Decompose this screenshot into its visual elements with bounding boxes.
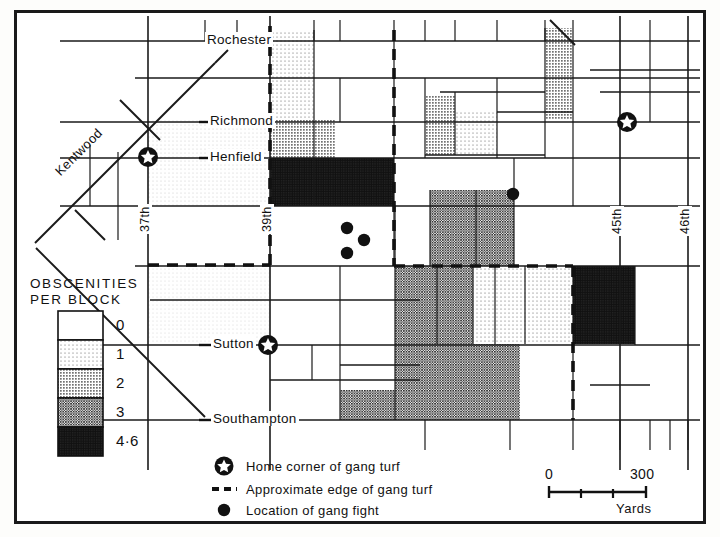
- shaded-blocks: [148, 28, 635, 420]
- key-label-home-corner: Home corner of gang turf: [246, 459, 400, 474]
- street-label-39th: 39th: [260, 204, 274, 234]
- legend-title-line2: PER BLOCK: [30, 292, 122, 307]
- legend-value-2: 2: [116, 374, 125, 391]
- scale-bar: [549, 486, 646, 498]
- street-label-henfield: Henfield: [208, 149, 264, 164]
- key-symbols: [212, 457, 237, 517]
- legend-title-line1: OBSCENITIES: [30, 276, 138, 291]
- street-label-46th: 46th: [678, 206, 692, 236]
- street-label-southampton: Southampton: [211, 411, 299, 426]
- key-label-gang-fight: Location of gang fight: [246, 503, 379, 518]
- street-label-sutton: Sutton: [211, 336, 256, 351]
- street-label-45th: 45th: [610, 206, 624, 236]
- key-star-icon: [215, 457, 234, 476]
- scale-max-label: 300: [630, 466, 654, 482]
- legend-value-0: 0: [116, 316, 125, 333]
- legend-value-4-6: 4·6: [116, 432, 139, 449]
- scale-units-label: Yards: [616, 501, 652, 516]
- street-label-rochester: Rochester: [205, 32, 273, 47]
- key-label-turf-edge: Approximate edge of gang turf: [246, 482, 433, 497]
- legend-value-3: 3: [116, 403, 125, 420]
- legend-swatch-column: [58, 311, 103, 456]
- map-figure: Rochester Richmond Henfield Sutton South…: [0, 0, 720, 537]
- legend-value-1: 1: [116, 345, 125, 362]
- key-dot-icon: [218, 504, 230, 516]
- map-canvas: [0, 0, 720, 537]
- street-label-37th: 37th: [138, 204, 152, 234]
- scale-min-label: 0: [545, 466, 553, 482]
- street-label-richmond: Richmond: [208, 113, 275, 128]
